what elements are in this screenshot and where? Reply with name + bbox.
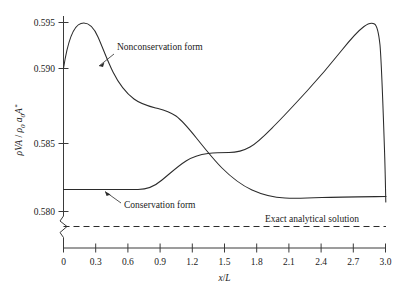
chart-figure: 0.595 0.590 0.585 0.580 ρVA / ρ0 a0A* bbox=[0, 0, 399, 292]
x-tick-label-0p3: 0.3 bbox=[90, 257, 102, 267]
annotation-label-conservation: Conservation form bbox=[124, 200, 196, 210]
x-tick-label-2p1: 2.1 bbox=[283, 257, 295, 267]
x-tick-label-1p8: 1.8 bbox=[251, 257, 263, 267]
x-tick-label-3p0: 3.0 bbox=[380, 257, 392, 267]
y-tick-label-0580: 0.580 bbox=[34, 207, 56, 217]
x-tick-label-2p7: 2.7 bbox=[347, 257, 359, 267]
x-axis-title: x/L bbox=[217, 273, 230, 283]
x-tick-label-0p9: 0.9 bbox=[154, 257, 166, 267]
y-tick-label-0585: 0.585 bbox=[34, 139, 56, 149]
x-tick-label-1p2: 1.2 bbox=[186, 257, 198, 267]
x-tick-label-1p5: 1.5 bbox=[219, 257, 231, 267]
chart-svg: 0.595 0.590 0.585 0.580 ρVA / ρ0 a0A* bbox=[0, 0, 399, 292]
x-tick-label-0p6: 0.6 bbox=[122, 257, 134, 267]
y-tick-label-0595: 0.595 bbox=[34, 18, 56, 28]
y-tick-label-0590: 0.590 bbox=[34, 64, 56, 74]
x-tick-label-0: 0 bbox=[61, 257, 66, 267]
x-tick-label-2p4: 2.4 bbox=[315, 257, 327, 267]
annotation-label-nonconservation: Nonconservation form bbox=[117, 42, 203, 52]
annotation-label-exact-analytical: Exact analytical solution bbox=[265, 214, 359, 224]
